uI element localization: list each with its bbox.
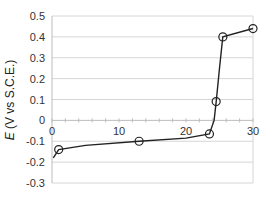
y-tick-label: -0.3 — [26, 177, 45, 189]
y-tick-label: -0.1 — [26, 135, 45, 147]
y-axis-label: E (V vs S.C.E.) — [3, 60, 17, 141]
y-tick-label: 0.1 — [30, 94, 45, 106]
y-tick-label: 0.4 — [30, 31, 45, 43]
y-tick-label: -0.2 — [26, 156, 45, 168]
x-tick-label: 20 — [180, 125, 192, 137]
x-tick-label: 30 — [247, 125, 259, 137]
y-tick-label: 0.3 — [30, 52, 45, 64]
series-line — [53, 29, 253, 158]
y-tick-label: 0 — [39, 114, 45, 126]
chart: 0.50.40.30.20.10-0.1-0.2-0.3 0102030 E (… — [0, 0, 260, 198]
data-series — [53, 25, 257, 158]
y-tick-label: 0.2 — [30, 73, 45, 85]
x-tick-label: 10 — [113, 125, 125, 137]
y-tick-label: 0.5 — [30, 10, 45, 22]
x-tick-label: 0 — [49, 125, 55, 137]
y-tick-labels: 0.50.40.30.20.10-0.1-0.2-0.3 — [26, 10, 45, 189]
x-tick-labels: 0102030 — [49, 125, 259, 137]
y-axis-label-unit: (V vs S.C.E.) — [3, 60, 17, 133]
